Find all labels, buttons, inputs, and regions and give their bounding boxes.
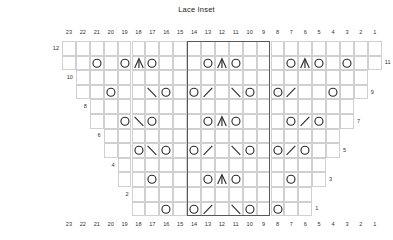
chart-cell-r10-c18[interactable] [132, 70, 146, 85]
chart-cell-r2-c16[interactable] [159, 187, 173, 202]
chart-cell-r5-c5[interactable] [312, 143, 326, 158]
chart-cell-r8-c6[interactable] [298, 99, 312, 114]
chart-cell-r11-c16[interactable] [159, 56, 173, 71]
chart-cell-r11-c3[interactable] [340, 56, 354, 71]
chart-cell-r6-c15[interactable] [173, 129, 187, 144]
chart-cell-r12-c4[interactable] [326, 41, 340, 56]
chart-cell-r3-c6[interactable] [298, 172, 312, 187]
chart-cell-r8-c16[interactable] [159, 99, 173, 114]
chart-cell-r12-c5[interactable] [312, 41, 326, 56]
chart-cell-r5-c20[interactable] [104, 143, 118, 158]
chart-cell-r8-c18[interactable] [132, 99, 146, 114]
chart-cell-r6-c8[interactable] [271, 129, 285, 144]
chart-cell-r2-c18[interactable] [132, 187, 146, 202]
chart-cell-r3-c19[interactable] [118, 172, 132, 187]
chart-cell-r10-c3[interactable] [340, 70, 354, 85]
chart-cell-r8-c17[interactable] [145, 99, 159, 114]
chart-cell-r10-c21[interactable] [90, 70, 104, 85]
chart-cell-r9-c6[interactable] [298, 85, 312, 100]
chart-cell-r10-c19[interactable] [118, 70, 132, 85]
chart-cell-r5-c8[interactable] [271, 143, 285, 158]
chart-cell-r9-c5[interactable] [312, 85, 326, 100]
chart-cell-r7-c7[interactable] [284, 114, 298, 129]
chart-cell-r11-c15[interactable] [173, 56, 187, 71]
chart-cell-r11-c7[interactable] [284, 56, 298, 71]
chart-cell-r2-c7[interactable] [284, 187, 298, 202]
chart-cell-r7-c19[interactable] [118, 114, 132, 129]
chart-cell-r4-c19[interactable] [118, 158, 132, 173]
chart-cell-r6-c16[interactable] [159, 129, 173, 144]
chart-cell-r7-c21[interactable] [90, 114, 104, 129]
chart-cell-r2-c15[interactable] [173, 187, 187, 202]
chart-cell-r11-c18[interactable] [132, 56, 146, 71]
chart-cell-r9-c15[interactable] [173, 85, 187, 100]
chart-cell-r3-c7[interactable] [284, 172, 298, 187]
chart-cell-r12-c6[interactable] [298, 41, 312, 56]
chart-cell-r3-c5[interactable] [312, 172, 326, 187]
chart-cell-r3-c18[interactable] [132, 172, 146, 187]
chart-cell-r11-c1[interactable] [368, 56, 382, 71]
chart-cell-r4-c6[interactable] [298, 158, 312, 173]
chart-cell-r8-c3[interactable] [340, 99, 354, 114]
chart-cell-r6-c17[interactable] [145, 129, 159, 144]
chart-cell-r8-c15[interactable] [173, 99, 187, 114]
chart-cell-r9-c22[interactable] [76, 85, 90, 100]
chart-cell-r1-c7[interactable] [284, 202, 298, 217]
chart-cell-r4-c16[interactable] [159, 158, 173, 173]
chart-cell-r6-c5[interactable] [312, 129, 326, 144]
chart-cell-r2-c17[interactable] [145, 187, 159, 202]
chart-cell-r2-c6[interactable] [298, 187, 312, 202]
chart-cell-r11-c21[interactable] [90, 56, 104, 71]
chart-cell-r1-c16[interactable] [159, 202, 173, 217]
chart-cell-r5-c15[interactable] [173, 143, 187, 158]
chart-cell-r4-c17[interactable] [145, 158, 159, 173]
chart-cell-r6-c4[interactable] [326, 129, 340, 144]
chart-cell-r12-c23[interactable] [62, 41, 76, 56]
chart-cell-r11-c19[interactable] [118, 56, 132, 71]
chart-cell-r4-c5[interactable] [312, 158, 326, 173]
chart-cell-r12-c3[interactable] [340, 41, 354, 56]
chart-cell-r5-c6[interactable] [298, 143, 312, 158]
chart-cell-r10-c20[interactable] [104, 70, 118, 85]
chart-cell-r12-c17[interactable] [145, 41, 159, 56]
chart-cell-r3-c8[interactable] [271, 172, 285, 187]
chart-cell-r5-c18[interactable] [132, 143, 146, 158]
chart-cell-r10-c6[interactable] [298, 70, 312, 85]
chart-cell-r12-c21[interactable] [90, 41, 104, 56]
chart-cell-r12-c22[interactable] [76, 41, 90, 56]
chart-cell-r9-c7[interactable] [284, 85, 298, 100]
chart-cell-r5-c4[interactable] [326, 143, 340, 158]
chart-cell-r11-c6[interactable] [298, 56, 312, 71]
chart-cell-r8-c4[interactable] [326, 99, 340, 114]
chart-cell-r3-c15[interactable] [173, 172, 187, 187]
chart-cell-r10-c7[interactable] [284, 70, 298, 85]
chart-cell-r10-c2[interactable] [354, 70, 368, 85]
chart-cell-r11-c2[interactable] [354, 56, 368, 71]
chart-cell-r12-c8[interactable] [271, 41, 285, 56]
chart-cell-r11-c17[interactable] [145, 56, 159, 71]
chart-cell-r10-c17[interactable] [145, 70, 159, 85]
chart-cell-r5-c17[interactable] [145, 143, 159, 158]
chart-cell-r10-c5[interactable] [312, 70, 326, 85]
chart-cell-r10-c8[interactable] [271, 70, 285, 85]
chart-cell-r7-c18[interactable] [132, 114, 146, 129]
chart-cell-r3-c16[interactable] [159, 172, 173, 187]
chart-cell-r11-c8[interactable] [271, 56, 285, 71]
chart-cell-r7-c17[interactable] [145, 114, 159, 129]
chart-cell-r1-c15[interactable] [173, 202, 187, 217]
chart-cell-r8-c19[interactable] [118, 99, 132, 114]
chart-cell-r8-c20[interactable] [104, 99, 118, 114]
chart-cell-r7-c20[interactable] [104, 114, 118, 129]
chart-cell-r7-c15[interactable] [173, 114, 187, 129]
chart-cell-r5-c19[interactable] [118, 143, 132, 158]
chart-cell-r1-c18[interactable] [132, 202, 146, 217]
chart-cell-r11-c5[interactable] [312, 56, 326, 71]
chart-cell-r8-c5[interactable] [312, 99, 326, 114]
chart-cell-r11-c22[interactable] [76, 56, 90, 71]
chart-cell-r9-c18[interactable] [132, 85, 146, 100]
chart-cell-r9-c3[interactable] [340, 85, 354, 100]
chart-cell-r1-c6[interactable] [298, 202, 312, 217]
chart-cell-r6-c7[interactable] [284, 129, 298, 144]
chart-cell-r11-c23[interactable] [62, 56, 76, 71]
chart-cell-r12-c16[interactable] [159, 41, 173, 56]
